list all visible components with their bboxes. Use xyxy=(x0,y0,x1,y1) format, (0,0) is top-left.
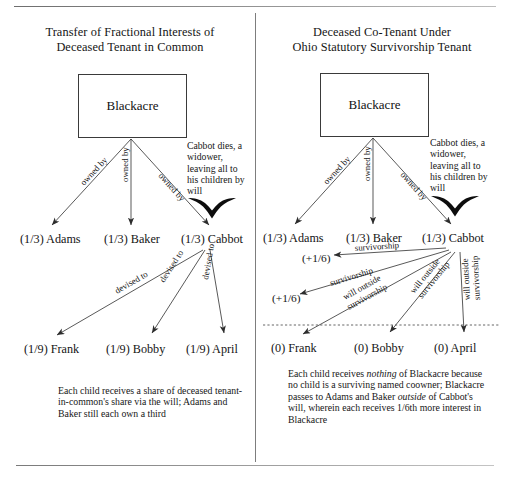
owner-share-baker-right: (1/3) xyxy=(346,231,370,245)
top-horizontal-rule xyxy=(14,6,496,7)
caption-right-emphasis-2: outside xyxy=(398,391,426,402)
child-label-bobby-left: (1/9) Bobby xyxy=(106,342,165,357)
property-box-label-right: Blackacre xyxy=(349,97,401,113)
edge-label-will-outside-april-right-line1: will outside xyxy=(460,258,472,300)
child-label-april-left: (1/9) April xyxy=(186,342,238,357)
panel-divider xyxy=(255,13,256,462)
property-box-label-left: Blackacre xyxy=(107,98,159,114)
child-share-april-left: (1/9) xyxy=(186,342,210,356)
property-box-blackacre-right: Blackacre xyxy=(320,73,429,137)
brace-right xyxy=(431,196,479,217)
edge-label-devised-to-frank-left: devised to xyxy=(113,269,150,296)
owner-label-baker-right: (1/3) Baker xyxy=(346,231,402,246)
ownership-arrows-left: owned by owned by owned by xyxy=(52,139,209,225)
child-share-april-right: (0) xyxy=(434,341,448,355)
child-label-bobby-right: (0) Bobby xyxy=(354,341,404,356)
child-label-april-right: (0) April xyxy=(434,341,476,356)
right-panel-heading: Deceased Co-Tenant Under Ohio Statutory … xyxy=(262,25,502,54)
owner-name-adams-left: Adams xyxy=(46,232,81,246)
edge-label-owned-by-adams-left: owned by xyxy=(78,155,109,188)
child-name-april-right: April xyxy=(451,341,477,355)
edge-label-owned-by-adams-right: owned by xyxy=(321,154,352,187)
left-heading-line-2: Deceased Tenant in Common xyxy=(10,40,250,55)
devise-arrows-left: devised to devised to devised to xyxy=(57,242,224,335)
edge-label-will-outside-frank-right-line1: will outside xyxy=(341,273,382,302)
edge-label-survivorship-adams-right: survivorship xyxy=(329,265,375,288)
child-share-bobby-right: (0) xyxy=(354,341,368,355)
owner-name-baker-right: Baker xyxy=(373,231,402,245)
child-label-frank-right: (0) Frank xyxy=(271,341,317,356)
ownership-arrows-right: owned by owned by owned by xyxy=(295,138,451,224)
right-heading-line-1: Deceased Co-Tenant Under xyxy=(262,25,502,40)
child-share-frank-right: (0) xyxy=(271,341,285,355)
owner-share-baker-left: (1/3) xyxy=(104,232,128,246)
bottom-horizontal-rule xyxy=(16,465,494,466)
owner-share-adams-right: (1/3) xyxy=(263,231,287,245)
figure-canvas: Transfer of Fractional Interests of Dece… xyxy=(0,0,505,484)
edge-label-devised-to-april-left: devised to xyxy=(200,242,216,280)
left-heading-line-1: Transfer of Fractional Interests of xyxy=(10,25,250,40)
child-share-frank-left: (1/9) xyxy=(24,342,48,356)
owner-label-cabbot-left: (1/3) Cabbot xyxy=(181,232,243,247)
child-name-frank-right: Frank xyxy=(288,341,316,355)
increment-label-baker-right: (+1/6) xyxy=(302,252,331,264)
owner-label-adams-right: (1/3) Adams xyxy=(263,231,324,246)
child-share-bobby-left: (1/9) xyxy=(106,342,130,356)
child-name-bobby-right: Bobby xyxy=(371,341,404,355)
caption-right: Each child receives nothing of Blackacre… xyxy=(288,368,493,425)
edge-label-will-outside-frank-right-line2: survivorship xyxy=(345,281,389,312)
owner-share-cabbot-right: (1/3) xyxy=(422,231,446,245)
owner-share-adams-left: (1/3) xyxy=(20,232,44,246)
edge-label-will-outside-bobby-right-line1: will outside xyxy=(408,257,442,296)
child-name-april-left: April xyxy=(212,342,238,356)
child-label-frank-left: (1/9) Frank xyxy=(24,342,79,357)
survivorship-arrows-right: survivorship survivorship xyxy=(300,240,449,294)
left-panel-heading: Transfer of Fractional Interests of Dece… xyxy=(10,25,250,54)
brace-left xyxy=(188,198,236,219)
will-outside-arrows-right: will outside survivorship will outside s… xyxy=(303,252,482,334)
edge-label-will-outside-bobby-right-line2: survivorship xyxy=(416,259,452,300)
death-note-right: Cabbot dies, a widower, leaving all to h… xyxy=(430,137,492,193)
owner-label-cabbot-right: (1/3) Cabbot xyxy=(422,231,484,246)
child-name-bobby-left: Bobby xyxy=(133,342,166,356)
edge-label-will-outside-april-right-line2: survivorship xyxy=(470,255,482,300)
owner-label-adams-left: (1/3) Adams xyxy=(20,232,81,247)
edge-label-devised-to-bobby-left: devised to xyxy=(157,248,185,284)
edge-label-owned-by-cabbot-left: owned by xyxy=(157,171,188,204)
owner-name-cabbot-right: Cabbot xyxy=(449,231,484,245)
owner-share-cabbot-left: (1/3) xyxy=(181,232,205,246)
edge-label-owned-by-baker-left: owned by xyxy=(120,147,130,182)
caption-right-part-1: Each child receives xyxy=(288,368,367,379)
property-box-blackacre-left: Blackacre xyxy=(78,74,187,138)
edge-label-owned-by-cabbot-right: owned by xyxy=(399,170,430,203)
increment-label-adams-right: (+1/6) xyxy=(272,292,301,304)
caption-right-emphasis-1: nothing xyxy=(367,368,397,379)
death-note-left: Cabbot dies, a widower, leaving all to h… xyxy=(187,140,249,196)
owner-name-baker-left: Baker xyxy=(131,232,160,246)
owner-name-cabbot-left: Cabbot xyxy=(208,232,243,246)
edge-label-owned-by-baker-right: owned by xyxy=(362,146,372,181)
caption-left: Each child receives a share of deceased … xyxy=(58,385,248,419)
owner-name-adams-right: Adams xyxy=(289,231,324,245)
child-name-frank-left: Frank xyxy=(51,342,79,356)
right-heading-line-2: Ohio Statutory Survivorship Tenant xyxy=(262,40,502,55)
owner-label-baker-left: (1/3) Baker xyxy=(104,232,160,247)
